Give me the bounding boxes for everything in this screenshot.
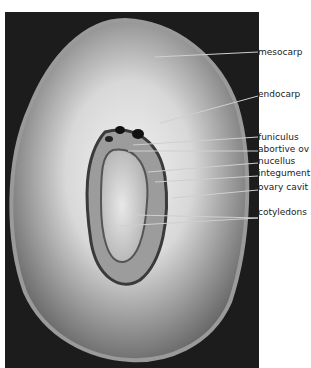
- label-cotyledons: cotyledons: [258, 207, 307, 217]
- label-endocarp: endocarp: [258, 89, 300, 99]
- label-abortive-ovule: abortive ov: [258, 144, 309, 154]
- label-funiculus: funiculus: [258, 132, 299, 142]
- label-integument: integument: [258, 168, 310, 178]
- label-mesocarp: mesocarp: [258, 47, 302, 57]
- label-nucellus: nucellus: [258, 156, 295, 166]
- label-ovary-cavity: ovary cavit: [258, 182, 308, 192]
